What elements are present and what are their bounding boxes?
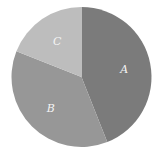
slice-label-b: B xyxy=(46,102,55,115)
pie-chart: ABC xyxy=(0,0,164,156)
slice-label-c: C xyxy=(53,35,62,48)
slice-label-a: A xyxy=(119,63,128,76)
